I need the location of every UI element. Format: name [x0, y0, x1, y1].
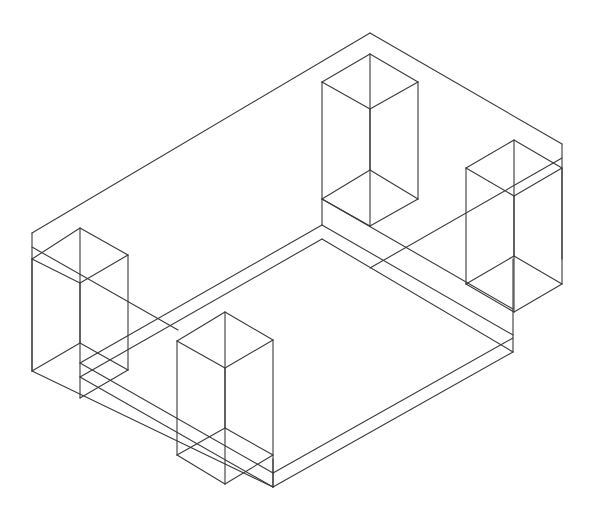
edge-line: [322, 225, 513, 335]
edge-line: [80, 255, 128, 283]
inner-floor: [80, 199, 513, 487]
post-front-left: [32, 228, 128, 398]
outer-box: [32, 33, 562, 487]
edge-line: [370, 199, 418, 226]
post-front-right: [177, 312, 273, 487]
edge-line: [80, 343, 128, 370]
edge-line: [322, 54, 370, 82]
edge-line: [32, 343, 80, 371]
edge-line: [225, 340, 273, 368]
edge-line: [80, 370, 128, 398]
edge-line: [177, 312, 225, 341]
edge-line: [514, 284, 562, 312]
edge-line: [80, 239, 322, 377]
edge-line: [370, 82, 418, 109]
edge-line: [466, 168, 514, 196]
edge-line: [322, 239, 513, 352]
edge-line: [322, 82, 370, 109]
edge-line: [273, 338, 513, 473]
edge-line: [514, 256, 562, 284]
edge-line: [225, 428, 273, 455]
edge-line: [32, 259, 80, 283]
post-back-left: [322, 54, 418, 226]
edge-line: [32, 33, 370, 233]
edge-line: [514, 140, 562, 168]
edge-line: [80, 228, 128, 255]
edge-line: [80, 225, 322, 363]
edge-line: [370, 33, 562, 144]
isometric-box-diagram: [0, 0, 590, 507]
edge-line: [466, 256, 514, 284]
edge-line: [466, 140, 514, 168]
edge-line: [273, 352, 513, 487]
edge-line: [225, 312, 273, 340]
edge-line: [322, 170, 370, 199]
edge-line: [32, 247, 178, 330]
edge-line: [177, 455, 225, 484]
edge-line: [370, 170, 418, 199]
edge-line: [32, 228, 80, 259]
edge-line: [32, 371, 273, 487]
edge-line: [177, 341, 225, 368]
edge-line: [466, 284, 514, 312]
edge-line: [322, 199, 370, 226]
edge-line: [370, 54, 418, 82]
